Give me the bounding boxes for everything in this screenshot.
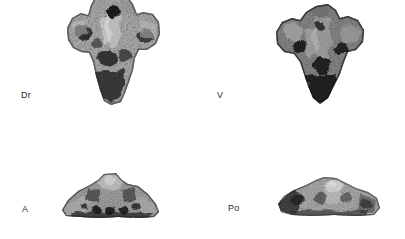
specimen-photo-ventral [270, 4, 374, 106]
view-label-posterior: Po [228, 204, 239, 213]
view-label-dorsal: Dr [21, 91, 31, 100]
view-label-anterior: A [22, 205, 28, 214]
view-label-ventral: V [217, 91, 223, 100]
specimen-photo-dorsal [63, 0, 165, 106]
figure-plate: Dr [0, 0, 405, 239]
specimen-photo-posterior [276, 176, 382, 218]
specimen-photo-anterior [60, 172, 162, 220]
